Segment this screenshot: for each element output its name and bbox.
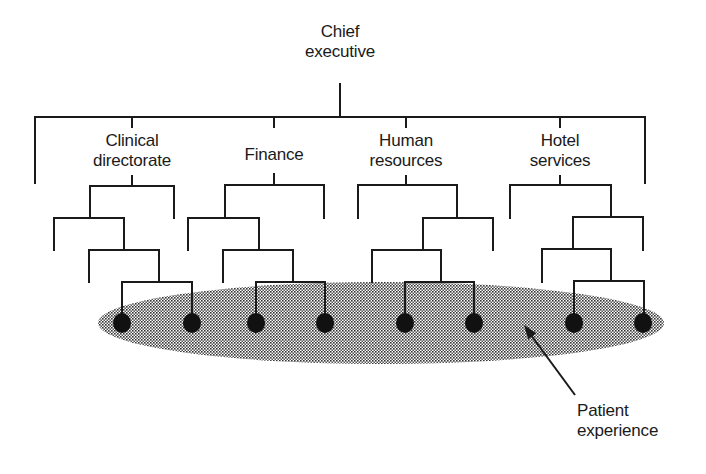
patient-experience-label: Patient experience <box>577 401 658 441</box>
staff-node <box>113 313 131 333</box>
department-label-line2: directorate <box>93 151 171 171</box>
staff-node <box>634 313 652 333</box>
department-label-human-resources: Human resources <box>370 131 443 171</box>
staff-node <box>183 313 201 333</box>
staff-node <box>465 313 483 333</box>
department-label-line1: Clinical <box>93 131 171 151</box>
staff-node <box>396 313 414 333</box>
chief-executive-line2: executive <box>305 42 375 62</box>
department-label-clinical-directorate: Clinical directorate <box>93 131 171 171</box>
department-label-line2: services <box>530 151 591 171</box>
patient-experience-line1: Patient <box>577 401 658 421</box>
department-label-line1: Human <box>370 131 443 151</box>
department-label-line1: Finance <box>244 145 303 165</box>
department-label-line1: Hotel <box>530 131 591 151</box>
chief-executive-label: Chief executive <box>305 22 375 62</box>
staff-node <box>316 313 334 333</box>
staff-node <box>247 313 265 333</box>
chief-executive-line1: Chief <box>305 22 375 42</box>
department-label-finance: Finance <box>244 145 303 165</box>
patient-experience-line2: experience <box>577 421 658 441</box>
department-label-hotel-services: Hotel services <box>530 131 591 171</box>
staff-node <box>565 313 583 333</box>
department-label-line2: resources <box>370 151 443 171</box>
